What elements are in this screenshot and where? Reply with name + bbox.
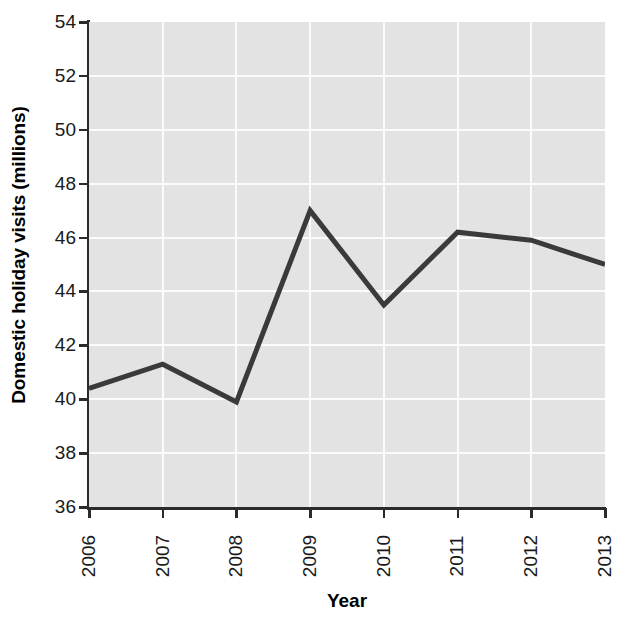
- y-tick-mark: [79, 129, 88, 132]
- y-tick-label: 48: [55, 173, 76, 195]
- x-tick-label: 2012: [519, 521, 543, 587]
- x-tick-label-text: 2011: [447, 536, 469, 577]
- x-tick-mark: [309, 508, 312, 518]
- x-axis-line: [87, 507, 606, 510]
- x-tick-label: 2013: [593, 521, 617, 587]
- x-tick-label-text: 2012: [520, 535, 542, 577]
- y-axis-title: Domestic holiday visits (millions): [0, 0, 38, 510]
- x-tick-label-text: 2010: [373, 535, 395, 577]
- line-chart: Domestic holiday visits (millions) 36384…: [0, 0, 632, 621]
- y-tick-mark: [79, 290, 88, 293]
- y-tick-label: 50: [55, 119, 76, 141]
- x-tick-label-text: 2006: [78, 535, 100, 577]
- x-tick-label-text: 2008: [225, 535, 247, 577]
- x-tick-mark: [530, 508, 533, 518]
- x-tick-mark: [457, 508, 460, 518]
- y-tick-mark: [79, 75, 88, 78]
- y-tick-label: 36: [55, 496, 76, 518]
- x-tick-mark: [88, 508, 91, 518]
- y-tick-label: 40: [55, 388, 76, 410]
- y-tick-label: 54: [55, 11, 76, 33]
- x-tick-mark: [604, 508, 607, 518]
- x-tick-label: 2008: [224, 521, 248, 587]
- x-tick-mark: [162, 508, 165, 518]
- y-tick-label: 52: [55, 65, 76, 87]
- y-tick-mark: [79, 183, 88, 186]
- y-tick-mark: [79, 21, 88, 24]
- y-tick-mark: [79, 237, 88, 240]
- y-tick-mark: [79, 344, 88, 347]
- x-tick-label: 2011: [446, 521, 470, 587]
- x-tick-label: 2007: [151, 521, 175, 587]
- data-line-series: [89, 22, 605, 507]
- x-tick-label: 2010: [372, 521, 396, 587]
- x-tick-mark: [235, 508, 238, 518]
- series-domestic-holiday-visits: [89, 211, 605, 402]
- x-tick-label: 2009: [298, 521, 322, 587]
- x-tick-label-text: 2009: [299, 535, 321, 577]
- y-axis-title-text: Domestic holiday visits (millions): [8, 106, 30, 404]
- y-tick-label: 44: [55, 280, 76, 302]
- x-axis-title: Year: [89, 590, 605, 612]
- y-tick-label: 38: [55, 442, 76, 464]
- x-tick-mark: [383, 508, 386, 518]
- x-tick-label-text: 2007: [152, 535, 174, 577]
- y-tick-mark: [79, 398, 88, 401]
- y-tick-label: 42: [55, 334, 76, 356]
- y-tick-mark: [79, 452, 88, 455]
- x-tick-label: 2006: [77, 521, 101, 587]
- y-tick-label: 46: [55, 227, 76, 249]
- y-axis-tick-labels: 36384042444648505254: [38, 0, 80, 621]
- x-tick-label-text: 2013: [594, 535, 616, 577]
- y-tick-mark: [79, 506, 88, 509]
- plot-area: [89, 22, 605, 507]
